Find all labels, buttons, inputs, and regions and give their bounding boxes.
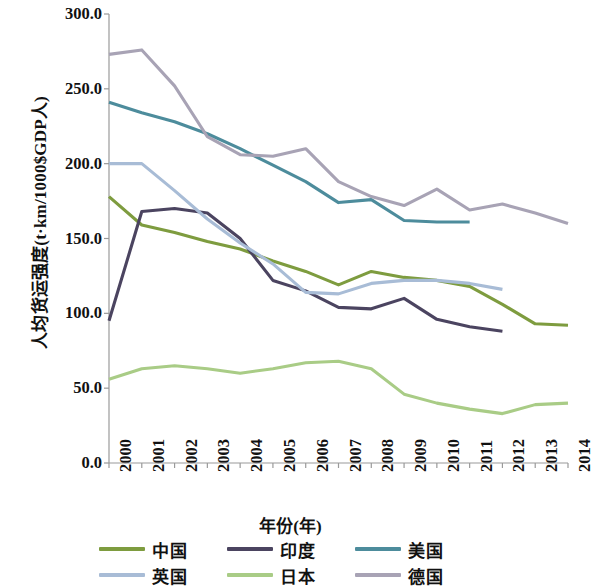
axis-lines — [109, 14, 568, 463]
legend-row-bottom: 英国日本德国 — [0, 562, 581, 588]
legend-label: 日本 — [280, 563, 316, 588]
plot-area — [0, 0, 581, 520]
legend-item[interactable]: 日本 — [227, 563, 355, 588]
legend-label: 印度 — [280, 537, 316, 562]
legend-swatch-icon — [355, 547, 401, 551]
series-line — [109, 361, 568, 413]
legend-swatch-icon — [227, 547, 273, 551]
tick-marks — [104, 14, 568, 468]
legend-item[interactable]: 美国 — [355, 537, 483, 562]
legend-item[interactable]: 印度 — [227, 537, 355, 562]
legend-item[interactable]: 德国 — [355, 563, 483, 588]
legend-item[interactable]: 英国 — [99, 563, 227, 588]
legend-row-top: 中国印度美国 — [0, 536, 581, 562]
chart-legend: 中国印度美国 英国日本德国 — [0, 536, 581, 588]
legend-swatch-icon — [355, 573, 401, 577]
legend-label: 中国 — [152, 537, 188, 562]
series-line — [109, 50, 568, 224]
legend-swatch-icon — [99, 573, 145, 577]
legend-item[interactable]: 中国 — [99, 537, 227, 562]
series-line — [109, 102, 470, 222]
legend-label: 德国 — [408, 563, 444, 588]
legend-swatch-icon — [99, 547, 145, 551]
legend-label: 美国 — [408, 537, 444, 562]
legend-swatch-icon — [227, 573, 273, 577]
series-lines — [109, 50, 568, 414]
legend-label: 英国 — [152, 563, 188, 588]
